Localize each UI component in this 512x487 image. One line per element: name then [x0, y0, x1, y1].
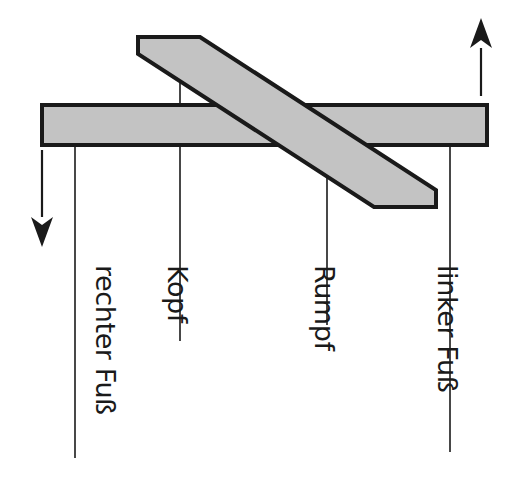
diagram-svg: rechter Fuß Kopf Rumpf linker Fuß	[0, 0, 512, 487]
label-kopf: Kopf	[162, 265, 193, 325]
down-arrow	[31, 150, 53, 247]
up-arrow	[470, 18, 492, 96]
label-rechter-fuss: rechter Fuß	[90, 265, 121, 415]
label-rumpf: Rumpf	[309, 265, 340, 352]
label-linker-fuss: linker Fuß	[432, 265, 463, 392]
diagram-canvas: rechter Fuß Kopf Rumpf linker Fuß	[0, 0, 512, 487]
